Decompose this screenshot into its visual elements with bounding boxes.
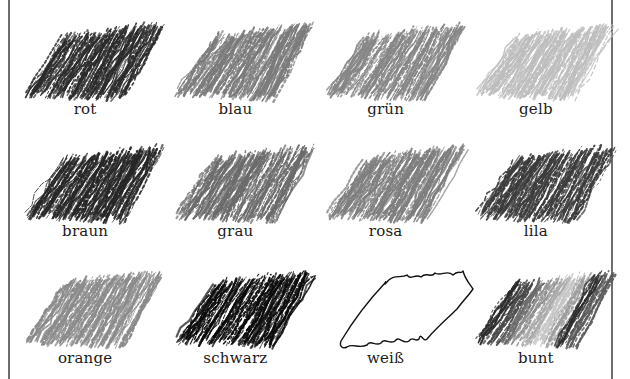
color-cell-lila: lila	[461, 122, 611, 245]
color-cell-orange: orange	[10, 245, 160, 379]
crayon-swatch-icon	[172, 14, 326, 102]
crayon-swatch-icon	[172, 136, 326, 224]
crayon-swatch-icon	[473, 14, 627, 102]
color-label: grau	[160, 222, 310, 240]
color-label: blau	[160, 100, 310, 118]
color-cell-bunt: bunt	[461, 245, 611, 379]
color-cell-rot: rot	[10, 0, 160, 122]
color-grid: rot blau grün gelb braun grau rosa lila …	[10, 0, 611, 379]
crayon-swatch-icon	[22, 14, 176, 102]
crayon-swatch-icon	[323, 136, 477, 224]
color-cell-braun: braun	[10, 122, 160, 245]
striped-swatch-icon	[473, 261, 627, 349]
color-label: schwarz	[160, 349, 310, 367]
crayon-swatch-icon	[22, 136, 176, 224]
color-cell-rosa: rosa	[311, 122, 461, 245]
color-label: lila	[461, 222, 611, 240]
outline-swatch-icon	[323, 261, 477, 349]
color-cell-weiss: weiß	[311, 245, 461, 379]
color-label: braun	[10, 222, 160, 240]
color-label: rosa	[311, 222, 461, 240]
color-cell-gruen: grün	[311, 0, 461, 122]
color-cell-grau: grau	[160, 122, 310, 245]
color-cell-gelb: gelb	[461, 0, 611, 122]
crayon-swatch-icon	[323, 14, 477, 102]
crayon-swatch-icon	[172, 261, 326, 349]
color-label: weiß	[311, 349, 461, 367]
color-label: grün	[311, 100, 461, 118]
color-cell-schwarz: schwarz	[160, 245, 310, 379]
crayon-swatch-icon	[473, 136, 627, 224]
color-label: bunt	[461, 349, 611, 367]
color-label: gelb	[461, 100, 611, 118]
crayon-swatch-icon	[22, 261, 176, 349]
color-label: rot	[10, 100, 160, 118]
color-label: orange	[10, 349, 160, 367]
color-cell-blau: blau	[160, 0, 310, 122]
